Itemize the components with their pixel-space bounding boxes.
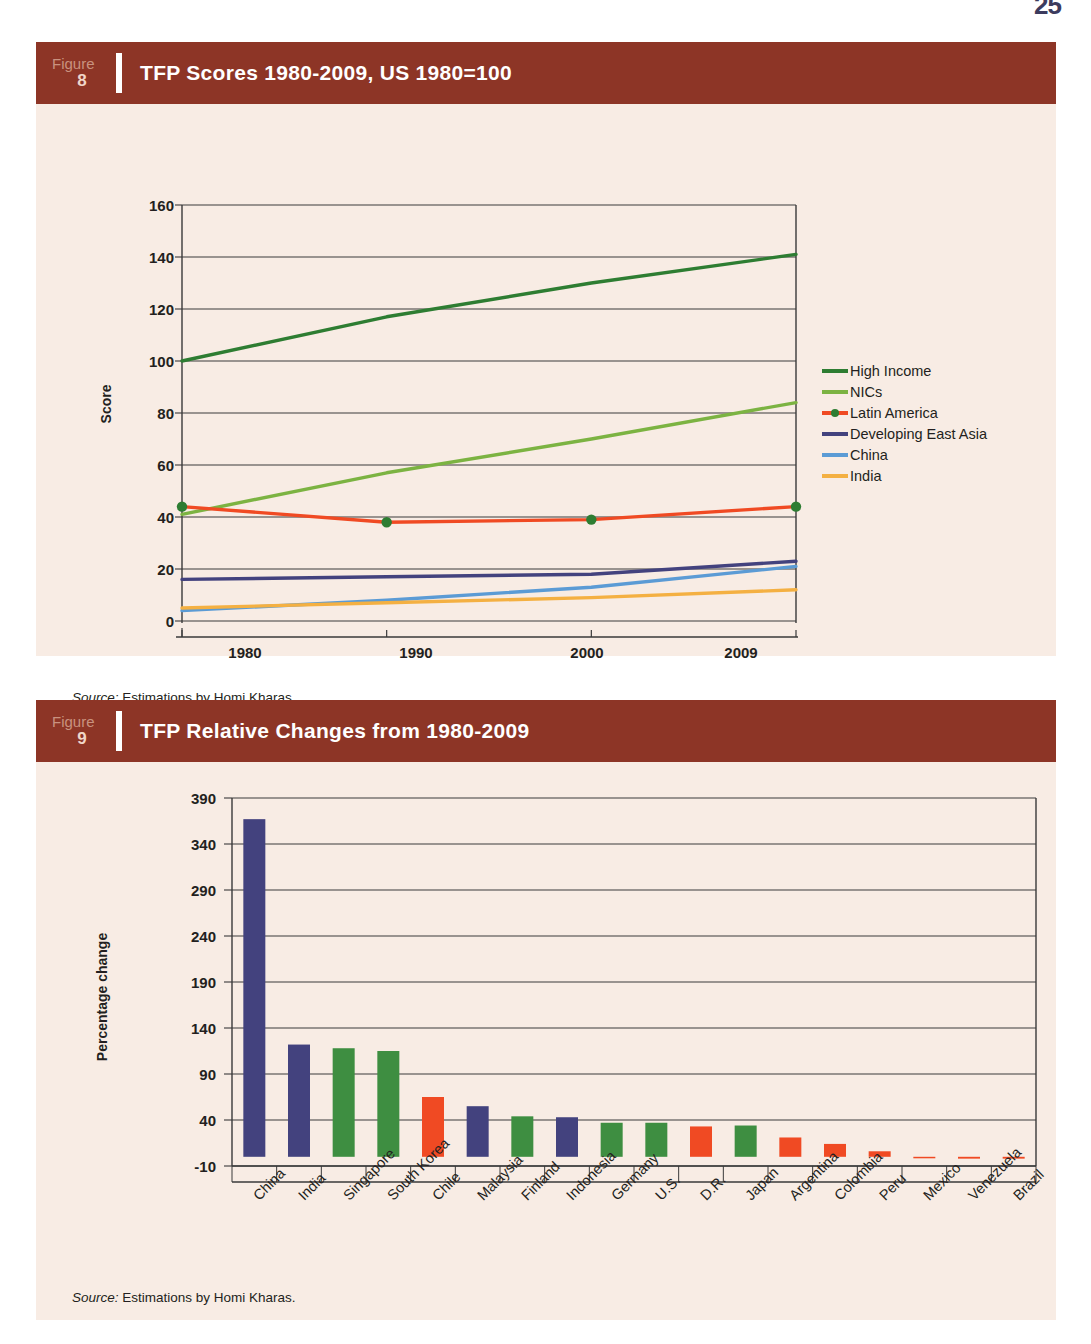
figure-8-badge-number: 8 [50, 72, 114, 90]
figure-9-title: TFP Relative Changes from 1980-2009 [140, 719, 529, 743]
figure-9-divider [116, 711, 122, 751]
legend-label: NICs [850, 384, 882, 400]
legend-swatch-icon [822, 369, 848, 373]
page-number: 25 [1034, 0, 1061, 21]
legend-swatch-icon [822, 411, 848, 415]
figure-9-source-text: Estimations by Homi Kharas. [119, 1290, 296, 1305]
legend-swatch-icon [822, 390, 848, 394]
legend-item-india: India [822, 465, 987, 486]
legend-label: China [850, 447, 888, 463]
figure-8-body: Score 160 140 120 100 80 60 40 20 0 1980… [36, 104, 1056, 656]
figure-8-header: Figure 8 TFP Scores 1980-2009, US 1980=1… [36, 42, 1056, 104]
legend-swatch-icon [822, 453, 848, 457]
figure-9-source: Source: Estimations by Homi Kharas. [72, 1290, 296, 1305]
legend-label: High Income [850, 363, 931, 379]
figure-9-header: Figure 9 TFP Relative Changes from 1980-… [36, 700, 1056, 762]
figure-9-source-prefix: Source: [72, 1290, 119, 1305]
figure-9-badge-word: Figure [50, 714, 114, 730]
legend-label: India [850, 468, 881, 484]
legend-swatch-icon [822, 474, 848, 478]
figure-8-divider [116, 53, 122, 93]
figure-8-legend: High Income NICs Latin America Developin… [822, 360, 987, 486]
legend-item-high-income: High Income [822, 360, 987, 381]
figure-9-badge-number: 9 [50, 730, 114, 748]
legend-item-developing-east-asia: Developing East Asia [822, 423, 987, 444]
legend-swatch-icon [822, 432, 848, 436]
figure-8-badge-word: Figure [50, 56, 114, 72]
figure-9-plot [36, 762, 1056, 1320]
figure-8-panel: Figure 8 TFP Scores 1980-2009, US 1980=1… [36, 42, 1056, 656]
figure-8-title: TFP Scores 1980-2009, US 1980=100 [140, 61, 512, 85]
figure-9-body: Percentage change 3903402902401901409040… [36, 762, 1056, 1320]
legend-item-china: China [822, 444, 987, 465]
figure-9-panel: Figure 9 TFP Relative Changes from 1980-… [36, 700, 1056, 1320]
figure-8-badge: Figure 8 [50, 56, 114, 90]
legend-label: Developing East Asia [850, 426, 987, 442]
figure-9-badge: Figure 9 [50, 714, 114, 748]
legend-label: Latin America [850, 405, 938, 421]
legend-item-nics: NICs [822, 381, 987, 402]
legend-item-latin-america: Latin America [822, 402, 987, 423]
